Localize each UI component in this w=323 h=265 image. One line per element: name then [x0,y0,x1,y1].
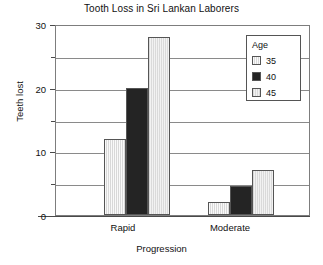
x-axis-title: Progression [0,243,323,254]
bar-rapid-age40 [126,88,148,215]
x-tick-label-moderate: Moderate [202,222,258,233]
gridline-15 [56,122,309,123]
bar-rapid-age45 [148,37,170,215]
y-tick-label-30: 30 [6,20,46,31]
x-tick-label-rapid: Rapid [98,222,148,233]
legend-label-40: 40 [266,72,276,82]
legend-item-40: 40 [252,69,300,84]
bar-moderate-age40 [230,186,252,215]
gridline-10 [56,153,309,154]
legend-label-35: 35 [266,56,276,66]
y-tick-0 [50,216,55,217]
bar-moderate-age45 [252,170,274,215]
legend-swatch-icon-40 [252,72,261,81]
legend-title: Age [252,40,300,50]
chart-container: Tooth Loss in Sri Lankan Laborers Teeth … [0,0,323,265]
y-tick-label-0: 0 [6,211,46,222]
legend: Age 35 40 45 [246,35,301,101]
bar-rapid-age35 [104,139,126,215]
x-axis-line [38,216,310,217]
legend-label-45: 45 [266,88,276,98]
legend-item-35: 35 [252,53,300,68]
y-tick-label-20: 20 [6,84,46,95]
legend-swatch-icon-45 [252,88,261,97]
legend-swatch-icon-35 [252,56,261,65]
bar-moderate-age35 [208,202,230,215]
chart-title: Tooth Loss in Sri Lankan Laborers [0,3,323,14]
legend-item-45: 45 [252,85,300,100]
y-tick-label-10: 10 [6,147,46,158]
y-axis-title: Teeth lost [14,52,25,152]
